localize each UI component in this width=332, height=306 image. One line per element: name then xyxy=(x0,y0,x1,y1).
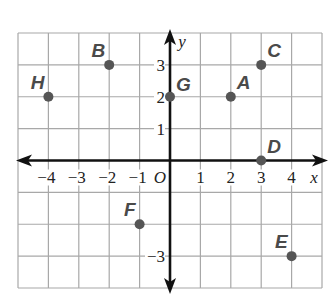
y-axis-label: y xyxy=(176,32,186,51)
point-label-h: H xyxy=(31,72,46,93)
x-tick-label: 3 xyxy=(257,168,266,187)
y-tick-label: 1 xyxy=(157,120,166,139)
point-label-d: D xyxy=(267,136,281,157)
x-axis-label: x xyxy=(309,168,318,187)
coordinate-plane: −4−3−2−11234321−3Oxy ABCDEFGH xyxy=(0,0,332,306)
x-tick-label: 2 xyxy=(227,168,236,187)
point-label-g: G xyxy=(176,74,191,95)
x-tick-label: 1 xyxy=(196,168,205,187)
axes xyxy=(16,29,328,294)
origin-label: O xyxy=(154,168,166,187)
x-tick-label: −2 xyxy=(98,168,116,187)
y-tick-label: 2 xyxy=(157,88,166,107)
point-e xyxy=(287,251,297,261)
point-f xyxy=(135,219,145,229)
x-tick-label: 4 xyxy=(287,168,296,187)
point-c xyxy=(256,60,266,70)
point-label-a: A xyxy=(236,72,251,93)
point-h xyxy=(43,92,53,102)
x-tick-label: −3 xyxy=(68,168,86,187)
point-label-e: E xyxy=(275,231,289,252)
point-label-b: B xyxy=(91,40,105,61)
point-d xyxy=(256,156,266,166)
point-a xyxy=(226,92,236,102)
point-g xyxy=(165,92,175,102)
y-tick-label: 3 xyxy=(157,56,166,75)
point-label-f: F xyxy=(124,199,137,220)
point-label-c: C xyxy=(267,40,281,61)
x-tick-label: −4 xyxy=(37,168,56,187)
x-tick-label: −1 xyxy=(129,168,147,187)
y-tick-label: −3 xyxy=(147,247,165,266)
point-b xyxy=(104,60,114,70)
